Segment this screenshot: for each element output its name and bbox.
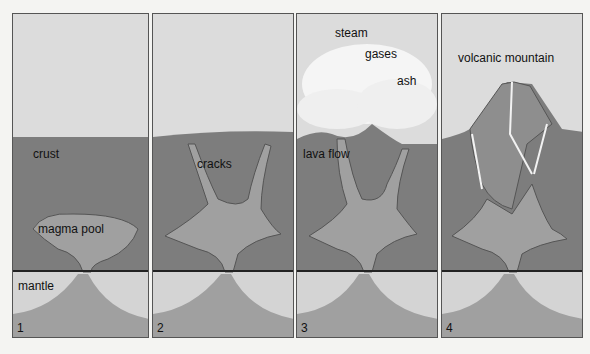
panel-2-illustration [153, 14, 294, 338]
panel-3: steam gases ash lava flow 3 [296, 13, 438, 338]
panel-number: 2 [157, 321, 164, 335]
label-cracks: cracks [197, 157, 232, 171]
panel-number: 4 [446, 321, 453, 335]
label-magma-pool: magma pool [38, 222, 104, 236]
label-volcanic-mountain: volcanic mountain [458, 51, 554, 65]
label-ash: ash [397, 74, 416, 88]
panel-4: volcanic mountain 4 [441, 13, 583, 338]
panel-1: crust magma pool mantle 1 [12, 13, 149, 338]
panel-number: 3 [301, 321, 308, 335]
panel-number: 1 [17, 321, 24, 335]
label-crust: crust [33, 147, 59, 161]
label-steam: steam [335, 26, 368, 40]
panel-2: cracks 2 [152, 13, 294, 338]
label-gases: gases [365, 47, 397, 61]
label-mantle: mantle [18, 279, 54, 293]
panel-3-illustration [297, 14, 438, 338]
label-lava-flow: lava flow [303, 147, 350, 161]
